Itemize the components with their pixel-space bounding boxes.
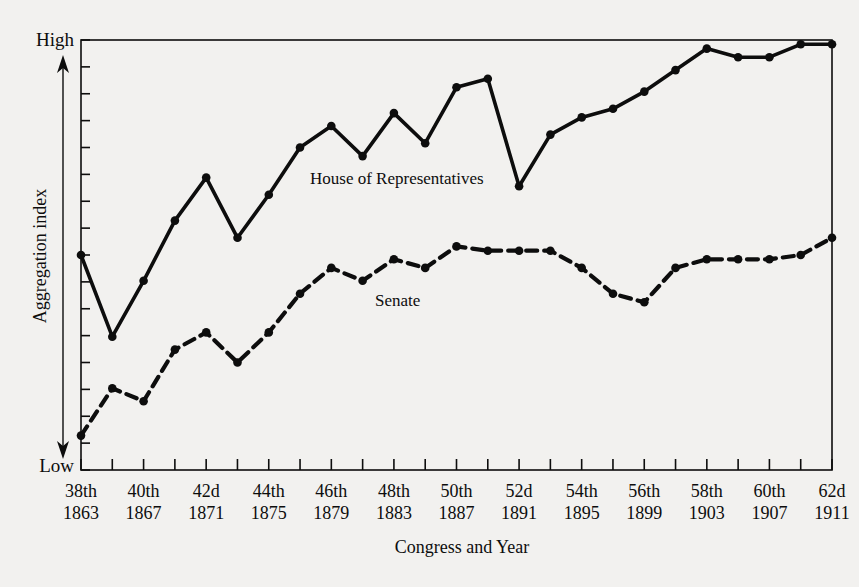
data-point-marker: [327, 122, 336, 131]
x-tick-year: 1891: [501, 503, 537, 523]
x-axis-ticks: [81, 459, 832, 470]
data-point-marker: [640, 87, 649, 96]
x-tick-year: 1875: [251, 503, 287, 523]
data-point-marker: [77, 431, 86, 440]
data-point-marker: [139, 397, 148, 406]
data-point-marker: [484, 246, 493, 255]
data-point-marker: [577, 264, 586, 273]
x-tick-year: 1867: [126, 503, 162, 523]
data-point-marker: [671, 66, 680, 75]
data-point-marker: [202, 173, 211, 182]
series-line-senate: [81, 238, 832, 436]
x-tick-congress: 44th: [253, 481, 285, 501]
x-tick-congress: 46th: [315, 481, 347, 501]
data-point-marker: [640, 298, 649, 307]
data-point-marker: [202, 328, 211, 337]
x-tick-congress: 54th: [566, 481, 598, 501]
data-point-marker: [390, 109, 399, 118]
data-point-marker: [546, 246, 555, 255]
x-tick-congress: 58th: [691, 481, 723, 501]
data-point-marker: [734, 255, 743, 264]
x-tick-congress: 60th: [753, 481, 785, 501]
data-point-marker: [296, 143, 305, 152]
data-point-marker: [233, 234, 242, 243]
data-point-marker: [609, 289, 618, 298]
data-point-marker: [609, 105, 618, 114]
x-tick-congress: 48th: [378, 481, 410, 501]
plot-frame: [81, 40, 832, 470]
y-axis-low-label: Low: [39, 455, 74, 476]
y-axis-high-label: High: [36, 29, 75, 50]
x-tick-congress: 38th: [65, 481, 97, 501]
data-point-marker: [546, 130, 555, 139]
line-chart: High Low Aggregation index 38th186340th1…: [0, 0, 859, 587]
data-point-marker: [108, 384, 117, 393]
x-tick-year: 1887: [439, 503, 475, 523]
data-point-marker: [765, 255, 774, 264]
y-axis-arrow: [57, 55, 69, 459]
senate-series-label: Senate: [375, 291, 420, 310]
data-point-marker: [421, 139, 430, 148]
x-axis-tick-labels: 38th186340th186742d187144th187546th18794…: [63, 481, 850, 523]
data-point-marker: [233, 358, 242, 367]
x-tick-year: 1907: [751, 503, 787, 523]
y-axis-title: Aggregation index: [30, 189, 50, 323]
x-tick-year: 1871: [188, 503, 224, 523]
x-tick-year: 1879: [313, 503, 349, 523]
data-point-marker: [139, 277, 148, 286]
data-point-marker: [452, 83, 461, 92]
data-point-marker: [703, 255, 712, 264]
data-point-marker: [796, 251, 805, 260]
x-tick-year: 1911: [814, 503, 849, 523]
x-tick-year: 1863: [63, 503, 99, 523]
x-axis-title: Congress and Year: [395, 537, 530, 557]
data-point-marker: [77, 251, 86, 260]
data-point-marker: [421, 264, 430, 273]
house-series-label: House of Representatives: [310, 169, 484, 188]
data-point-marker: [828, 40, 837, 49]
data-point-marker: [671, 264, 680, 273]
data-point-marker: [358, 152, 367, 161]
data-point-marker: [828, 234, 837, 243]
data-point-marker: [703, 44, 712, 53]
data-point-marker: [515, 182, 524, 191]
data-point-marker: [265, 191, 274, 200]
x-tick-year: 1903: [689, 503, 725, 523]
data-point-marker: [265, 328, 274, 337]
x-tick-congress: 40th: [128, 481, 160, 501]
data-point-marker: [515, 246, 524, 255]
data-point-marker: [327, 264, 336, 273]
data-point-marker: [796, 40, 805, 49]
data-point-marker: [577, 113, 586, 122]
x-tick-congress: 56th: [628, 481, 660, 501]
x-tick-congress: 62d: [819, 481, 846, 501]
data-point-marker: [108, 332, 117, 341]
x-tick-congress: 52d: [506, 481, 533, 501]
data-point-marker: [358, 277, 367, 286]
x-tick-year: 1895: [564, 503, 600, 523]
x-tick-congress: 42d: [193, 481, 220, 501]
data-point-marker: [390, 255, 399, 264]
x-tick-year: 1883: [376, 503, 412, 523]
x-tick-year: 1899: [626, 503, 662, 523]
data-point-marker: [296, 289, 305, 298]
series-layer: [77, 40, 837, 440]
data-point-marker: [765, 53, 774, 62]
data-point-marker: [734, 53, 743, 62]
data-point-marker: [484, 74, 493, 83]
data-point-marker: [171, 216, 180, 225]
data-point-marker: [171, 345, 180, 354]
data-point-marker: [452, 242, 461, 251]
x-tick-congress: 50th: [440, 481, 472, 501]
chart-figure: High Low Aggregation index 38th186340th1…: [0, 0, 859, 587]
annotation-layer: House of RepresentativesSenate: [310, 169, 484, 310]
